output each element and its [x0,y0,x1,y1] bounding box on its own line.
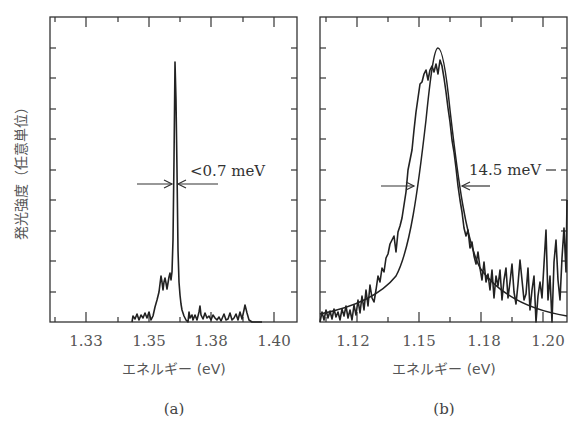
x-axis-label-b: エネルギー (eV) [392,361,496,377]
x-axis-label-a: エネルギー (eV) [122,361,226,377]
bottom-ticks-b [326,312,543,322]
x-tick-label-a-2: 1.38 [194,332,227,350]
top-ticks-a [55,17,274,27]
y-axis-label: 発光強度（任意単位） [13,100,29,240]
figure: 発光強度（任意単位） [0,0,582,436]
top-ticks-b [326,17,543,27]
x-tick-label-b-0: 1.12 [336,332,369,350]
fwhm-annotation-a: <0.7 meV [190,162,266,180]
spectrum-line-a [132,62,262,322]
x-tick-label-a-0: 1.33 [69,332,102,350]
x-tick-label-b-1: 1.15 [402,332,435,350]
panel-label-b: (b) [433,400,454,418]
fwhm-annotation-b: 14.5 meV [469,161,542,179]
panel-a: <0.7 meV 1.33 1.35 1.38 1.40 エネルギー (eV) … [50,17,297,418]
x-tick-label-b-2: 1.18 [467,332,500,350]
x-tick-label-a-3: 1.40 [257,332,290,350]
spectrum-line-b [320,60,567,322]
x-tick-label-a-1: 1.35 [132,332,165,350]
fwhm-arrows-b [381,182,490,190]
x-tick-label-b-3: 1.20 [531,332,564,350]
fit-curve-b [320,48,567,316]
panel-label-a: (a) [164,400,185,418]
panel-b: 14.5 meV 1.12 1.15 1.18 1.20 エネルギー (eV) … [320,17,567,418]
